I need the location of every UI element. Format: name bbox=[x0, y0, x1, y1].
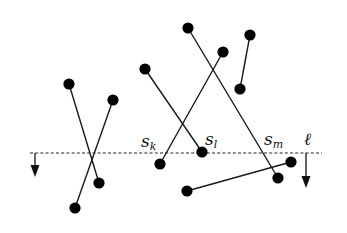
segments bbox=[63, 22, 296, 213]
segment-seg-2 bbox=[69, 94, 118, 213]
endpoint bbox=[182, 22, 193, 33]
segment-s_k bbox=[154, 46, 228, 169]
label-sl: sl bbox=[205, 129, 218, 151]
arrow-down-icon bbox=[31, 165, 40, 177]
left-arrow bbox=[31, 153, 40, 177]
segment-labels: skslsmℓ bbox=[141, 129, 311, 153]
endpoint bbox=[234, 83, 245, 94]
label-sk: sk bbox=[141, 131, 157, 153]
endpoint bbox=[285, 156, 296, 167]
endpoint bbox=[154, 158, 165, 169]
endpoint bbox=[93, 177, 104, 188]
right-arrow bbox=[302, 153, 311, 188]
segment-seg-1 bbox=[63, 78, 104, 188]
endpoint bbox=[244, 29, 255, 40]
endpoint bbox=[107, 94, 118, 105]
label-ell: ℓ bbox=[304, 129, 311, 149]
endpoint bbox=[139, 63, 150, 74]
sweep-direction-arrows bbox=[31, 153, 311, 188]
arrow-down-icon bbox=[302, 176, 311, 188]
endpoint bbox=[63, 78, 74, 89]
label-sm: sm bbox=[264, 129, 283, 151]
endpoint bbox=[69, 202, 80, 213]
segment-seg-6 bbox=[234, 29, 255, 94]
segment-s_m bbox=[182, 22, 283, 183]
endpoint bbox=[272, 172, 283, 183]
endpoint bbox=[217, 46, 228, 57]
endpoint bbox=[181, 185, 192, 196]
sweep-line-diagram: skslsmℓ bbox=[0, 0, 347, 233]
